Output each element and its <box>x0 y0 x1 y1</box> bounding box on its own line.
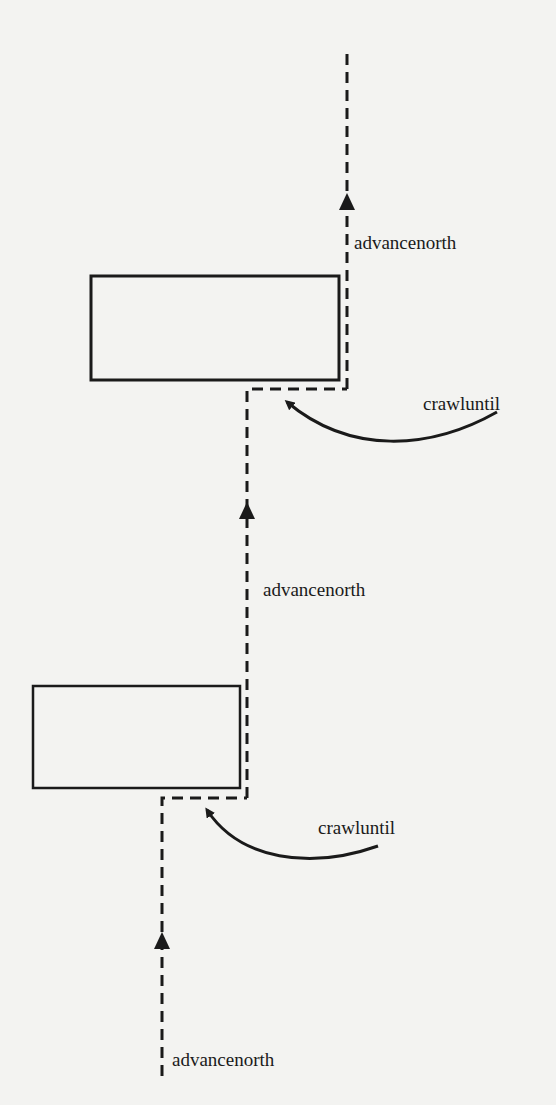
north-arrow-icon-top <box>339 193 355 210</box>
label-crawluntil-bottom: crawluntil <box>318 818 395 837</box>
robot-path <box>162 50 347 1076</box>
upper-obstacle <box>91 276 339 380</box>
label-advancenorth-middle: advancenorth <box>263 580 365 599</box>
north-arrow-icon-bottom <box>154 932 170 949</box>
label-advancenorth-bottom: advancenorth <box>172 1050 274 1069</box>
label-advancenorth-top: advancenorth <box>354 233 456 252</box>
north-arrow-icon-middle <box>239 502 255 519</box>
lower-obstacle <box>33 686 240 788</box>
path-diagram <box>0 0 556 1105</box>
path-segment-bottom <box>162 798 247 1076</box>
label-crawluntil-top: crawluntil <box>423 394 500 413</box>
